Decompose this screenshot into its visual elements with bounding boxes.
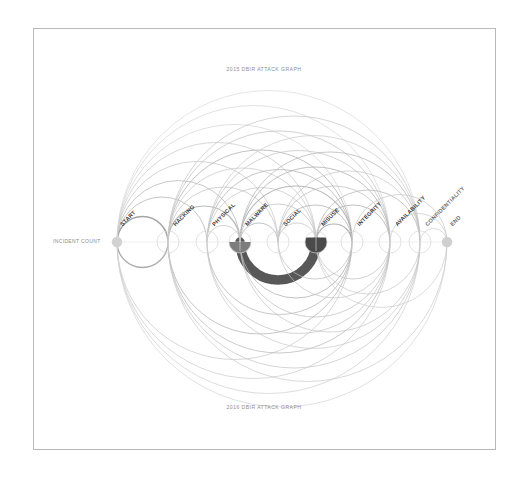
canvas: 2015 DBIR ATTACK GRAPH 2016 DBIR ATTACK … <box>0 0 528 484</box>
arc-start-to-hacking-down <box>117 242 168 268</box>
arc-misuse-to-availability-down <box>316 242 390 279</box>
arc-hacking-to-availability-up <box>168 131 390 242</box>
node-start[interactable] <box>112 237 122 247</box>
arc-physical-to-availability-down <box>207 242 390 333</box>
arc-physical-to-malware-up <box>207 226 240 243</box>
arc-group-below <box>117 242 447 407</box>
node-end[interactable] <box>442 237 452 247</box>
arc-hacking-to-availability-down <box>168 242 390 353</box>
arc-start-to-confidentiality-down <box>117 242 420 394</box>
arc-start-to-integrity-up <box>117 124 352 242</box>
arc-physical-to-availability-up <box>207 151 390 242</box>
incident-count-label: INCIDENT COUNT <box>53 238 101 244</box>
page-title-top: 2015 DBIR ATTACK GRAPH <box>0 66 528 72</box>
page-title-bottom: 2016 DBIR ATTACK GRAPH <box>0 404 528 410</box>
arc-hacking-to-confidentiality-down <box>168 242 420 368</box>
arc-start-to-end-down <box>117 242 447 407</box>
arc-start-to-confidentiality-up <box>117 91 420 243</box>
